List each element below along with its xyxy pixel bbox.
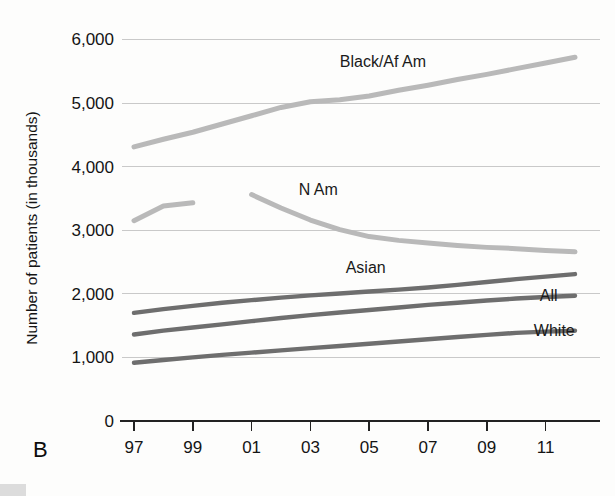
series-line-n-am-seg2 <box>252 195 575 252</box>
x-tick-label-99: 99 <box>183 438 202 457</box>
line-chart: 6,0005,0004,0003,0002,0001,0000 97990103… <box>0 0 615 496</box>
y-tick-label-3000: 3,000 <box>71 221 114 240</box>
x-tick-label-11: 11 <box>537 438 555 457</box>
panel-letter: B <box>33 437 48 462</box>
x-tick-label-07: 07 <box>419 438 438 457</box>
series-line-all <box>134 296 575 335</box>
series-line-black-af-am <box>134 57 575 147</box>
x-tick-label-05: 05 <box>360 438 379 457</box>
x-tick-label-01: 01 <box>242 438 261 457</box>
axes <box>120 421 600 431</box>
y-tick-label-0: 0 <box>105 412 114 431</box>
y-tick-label-6000: 6,000 <box>71 30 114 49</box>
y-tick-label-5000: 5,000 <box>71 94 114 113</box>
x-tick-label-97: 97 <box>125 438 144 457</box>
y-axis-title: Number of patients (in thousands) <box>23 111 40 344</box>
figure-panel-b: 6,0005,0004,0003,0002,0001,0000 97990103… <box>0 0 615 496</box>
series-label-all: All <box>540 287 558 304</box>
x-tick-label-03: 03 <box>301 438 320 457</box>
series-label-white: White <box>534 322 575 339</box>
x-axis-tick-labels: 9799010305070911 <box>125 438 555 457</box>
corner-artifact <box>0 484 26 496</box>
series-label-n-am: N Am <box>299 181 338 198</box>
x-tick-label-09: 09 <box>477 438 496 457</box>
series-line-n-am-seg1 <box>134 203 193 221</box>
series-label-asian: Asian <box>346 259 386 276</box>
series-label-black-af-am: Black/Af Am <box>340 53 426 70</box>
y-tick-label-1000: 1,000 <box>71 348 114 367</box>
y-tick-label-4000: 4,000 <box>71 158 114 177</box>
series-line-white <box>134 331 575 363</box>
y-tick-label-2000: 2,000 <box>71 285 114 304</box>
y-axis-tick-labels: 6,0005,0004,0003,0002,0001,0000 <box>71 30 114 431</box>
